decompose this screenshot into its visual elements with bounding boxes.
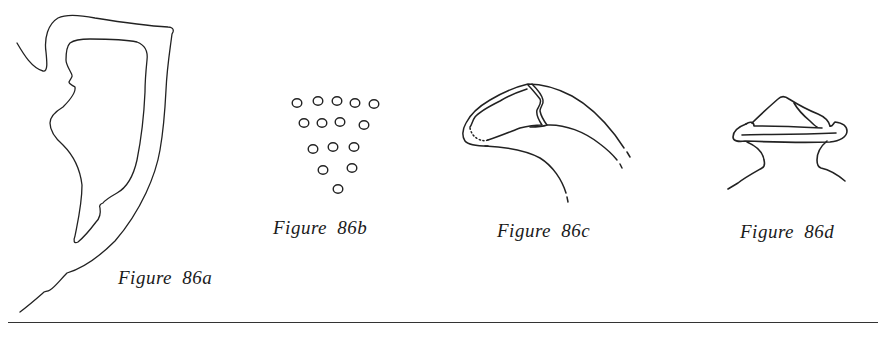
figure-86c-lower-curve	[485, 146, 566, 193]
dot-row-4	[318, 164, 357, 174]
figure-plate	[0, 0, 878, 344]
figure-86d-ring-top	[742, 133, 836, 135]
figure-86c-drawing	[463, 84, 630, 202]
figure-86c-inner-lip	[547, 125, 617, 160]
figure-86d-cone	[752, 97, 830, 126]
figure-86c-caption: Figure 86c	[497, 221, 590, 240]
dot-row-2	[299, 118, 369, 129]
dot-row-5	[333, 185, 343, 193]
figure-86d-cone-fold	[794, 103, 817, 127]
figure-86d-cone-base	[746, 122, 822, 128]
dot	[308, 145, 318, 153]
dot	[359, 121, 369, 129]
figure-86c-inner-rim-dotted	[470, 128, 488, 141]
dot	[332, 97, 342, 105]
figure-86c-inner-rim	[470, 85, 542, 140]
dot	[333, 185, 343, 193]
figure-86c-inner-lip-dash	[620, 164, 622, 168]
dot-row-3	[308, 143, 359, 153]
dot	[313, 97, 323, 105]
figure-86d-neck-right	[817, 141, 845, 181]
figure-86d-neck-left	[728, 142, 764, 189]
figure-86c-outer-shell	[463, 84, 624, 148]
figure-86a-caption: Figure 86a	[118, 268, 212, 287]
figure-86d-drawing	[728, 97, 847, 189]
figure-86a-inner-loop	[50, 39, 147, 243]
dot	[317, 119, 327, 127]
dot	[350, 99, 360, 107]
figure-86c-outer-tail-dash	[627, 152, 630, 157]
figure-86c-lower-curve-dash	[567, 197, 568, 202]
dot	[318, 166, 328, 174]
dot	[347, 164, 357, 172]
dot	[299, 119, 309, 127]
figure-86d-caption: Figure 86d	[740, 222, 834, 241]
dot	[369, 100, 379, 108]
dot	[335, 118, 345, 126]
figure-86b-drawing	[292, 97, 379, 193]
horizontal-rule	[8, 322, 878, 323]
dot	[349, 143, 359, 151]
dot	[328, 143, 338, 151]
figure-86b-caption: Figure 86b	[273, 218, 367, 237]
dot	[292, 99, 302, 107]
dot-row-1	[292, 97, 379, 108]
